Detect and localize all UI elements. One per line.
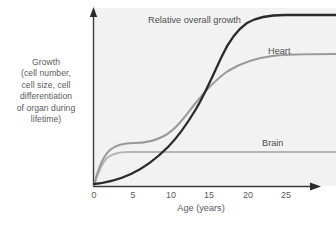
x-tick-label-25: 25 xyxy=(277,190,295,200)
y-axis-title-line-6: lifetime) xyxy=(4,114,88,125)
series-label-heart: Heart xyxy=(268,46,290,56)
y-axis-title-line-4: differentiation xyxy=(4,91,88,102)
y-axis-title-line-3: cell size, cell xyxy=(4,80,88,91)
x-tick-label-10: 10 xyxy=(162,190,180,200)
x-tick-label-5: 5 xyxy=(124,190,142,200)
y-axis-title-line-2: (cell number, xyxy=(4,68,88,79)
y-axis-title: Growth (cell number, cell size, cell dif… xyxy=(4,57,88,125)
x-axis-title: Age (years) xyxy=(96,203,306,213)
series-label-brain: Brain xyxy=(262,138,283,148)
growth-chart-figure: Growth (cell number, cell size, cell dif… xyxy=(0,0,336,228)
series-label-overall-growth: Relative overall growth xyxy=(148,15,241,25)
x-tick-label-15: 15 xyxy=(200,190,218,200)
y-axis-title-line-5: of organ during xyxy=(4,103,88,114)
y-axis-title-line-1: Growth xyxy=(4,57,88,68)
x-tick-label-0: 0 xyxy=(85,190,103,200)
plot-background xyxy=(93,8,336,186)
x-tick-label-20: 20 xyxy=(239,190,257,200)
